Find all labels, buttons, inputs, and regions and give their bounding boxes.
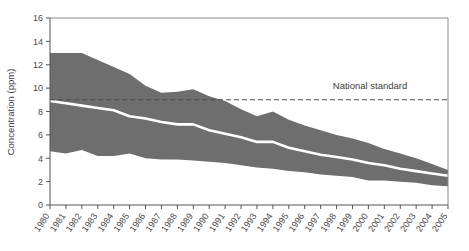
x-tick-label: 1993	[239, 211, 259, 233]
x-tick-label: 1987	[143, 211, 163, 233]
x-tick-label: 2003	[398, 211, 418, 233]
y-tick-label: 4	[38, 154, 43, 164]
x-tick-label: 2001	[366, 211, 386, 233]
y-axis-title: Concentration (ppm)	[5, 69, 16, 156]
x-tick-label: 1990	[191, 211, 211, 233]
y-tick-label: 0	[38, 200, 43, 210]
x-tick-label: 1989	[175, 211, 195, 233]
x-axis: 1980198119821983198419851986198719881989…	[32, 205, 450, 234]
x-tick-label: 1994	[255, 211, 275, 233]
x-tick-label: 1992	[223, 211, 243, 233]
y-tick-label: 6	[38, 130, 43, 140]
y-tick-label: 10	[33, 83, 43, 93]
x-tick-label: 1981	[48, 211, 68, 233]
x-tick-label: 1984	[96, 211, 116, 233]
y-tick-label: 8	[38, 107, 43, 117]
x-tick-label: 1995	[271, 211, 291, 233]
chart-container: National standard 0246810121416 Concentr…	[0, 0, 469, 251]
x-tick-label: 2005	[430, 211, 450, 233]
y-tick-label: 14	[33, 37, 43, 47]
x-tick-label: 1999	[334, 211, 354, 233]
concentration-trend-chart: National standard 0246810121416 Concentr…	[0, 0, 469, 251]
x-tick-label: 1997	[303, 211, 323, 233]
x-tick-label: 1996	[287, 211, 307, 233]
x-tick-label: 1985	[112, 211, 132, 233]
x-tick-label: 2002	[382, 211, 402, 233]
x-axis-ticks	[50, 205, 448, 209]
y-tick-label: 16	[33, 13, 43, 23]
y-tick-label: 2	[38, 177, 43, 187]
x-tick-label: 1982	[64, 211, 84, 233]
x-tick-label: 1983	[80, 211, 100, 233]
y-axis-ticks: 0246810121416	[33, 13, 50, 210]
x-tick-label: 1991	[207, 211, 227, 233]
y-axis: 0246810121416 Concentration (ppm)	[5, 13, 50, 210]
x-tick-label: 1998	[319, 211, 339, 233]
x-tick-label: 2004	[414, 211, 434, 233]
x-tick-label: 2000	[350, 211, 370, 233]
x-tick-label: 1988	[159, 211, 179, 233]
x-tick-label: 1986	[127, 211, 147, 233]
national-standard-label: National standard	[333, 80, 407, 91]
x-tick-label: 1980	[32, 211, 52, 233]
x-axis-tick-labels: 1980198119821983198419851986198719881989…	[32, 211, 450, 233]
y-tick-label: 12	[33, 60, 43, 70]
